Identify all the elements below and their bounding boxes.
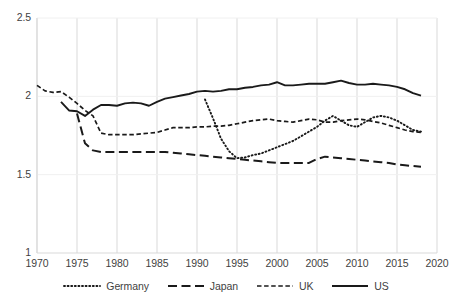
legend-swatch-uk-icon — [256, 281, 294, 291]
x-axis-tick-1990: 1990 — [177, 257, 217, 269]
x-axis-tick-1970: 1970 — [17, 257, 57, 269]
legend-swatch-japan-icon — [167, 281, 205, 291]
legend-label: UK — [299, 280, 313, 292]
legend-label: Japan — [210, 280, 238, 292]
x-axis-tick-2010: 2010 — [337, 257, 377, 269]
x-axis-tick-1980: 1980 — [97, 257, 137, 269]
series-line-uk — [37, 85, 421, 134]
x-axis-tick-1975: 1975 — [57, 257, 97, 269]
series-line-us — [61, 81, 421, 116]
x-axis-tick-2015: 2015 — [377, 257, 417, 269]
legend-swatch-us-icon — [331, 281, 369, 291]
y-axis-tick-1.5: 1.5 — [0, 168, 31, 180]
x-axis-tick-1985: 1985 — [137, 257, 177, 269]
x-axis-tick-2020: 2020 — [417, 257, 452, 269]
legend-swatch-germany-icon — [63, 281, 101, 291]
y-axis-tick-2: 2 — [0, 89, 31, 101]
chart-legend: GermanyJapanUKUS — [0, 280, 452, 292]
legend-item-uk[interactable]: UK — [256, 280, 313, 292]
legend-item-japan[interactable]: Japan — [167, 280, 238, 292]
legend-label: Germany — [106, 280, 148, 292]
line-chart: 11.522.519701975198019851990199520002005… — [0, 0, 452, 306]
legend-item-us[interactable]: US — [331, 280, 388, 292]
legend-label: US — [374, 280, 388, 292]
x-axis-tick-2005: 2005 — [297, 257, 337, 269]
y-axis-tick-2.5: 2.5 — [0, 11, 31, 23]
x-axis-tick-2000: 2000 — [257, 257, 297, 269]
legend-item-germany[interactable]: Germany — [63, 280, 148, 292]
x-axis-tick-1995: 1995 — [217, 257, 257, 269]
